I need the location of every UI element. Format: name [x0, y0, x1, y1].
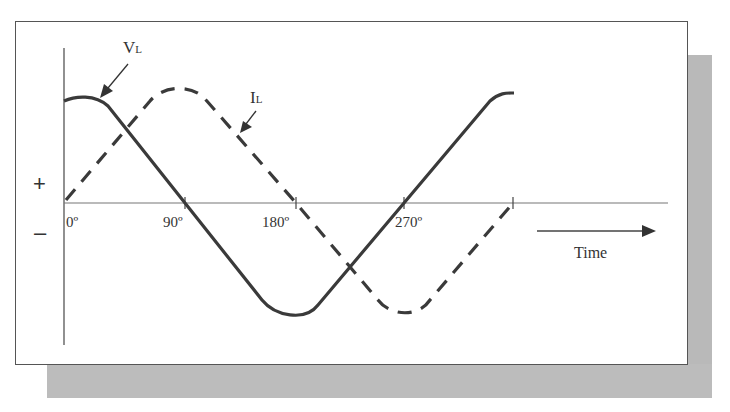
tick-label-0: 0º [66, 214, 78, 231]
plus-sign: + [33, 171, 46, 197]
tick-label-270: 270º [395, 214, 422, 231]
vl-pointer-arrowhead [100, 84, 113, 98]
il-pointer-line [246, 111, 256, 124]
time-arrowhead [642, 225, 656, 237]
minus-sign: – [34, 220, 46, 246]
tick-label-180: 180º [262, 214, 289, 231]
il-label: IL [250, 88, 262, 108]
vl-label: VL [123, 38, 142, 58]
vl-pointer-line [108, 64, 128, 88]
waveform-plot [0, 0, 730, 412]
il-pointer-arrowhead [240, 121, 252, 133]
current-curve-il [66, 88, 513, 312]
tick-label-90: 90º [163, 214, 183, 231]
time-label: Time [574, 244, 607, 262]
